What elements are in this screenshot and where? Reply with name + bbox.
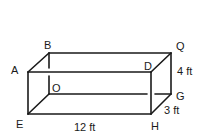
prism-diagram: B A Q D O G E H 4 ft 3 ft 12 ft <box>0 0 203 140</box>
vertex-label-A: A <box>11 64 19 76</box>
vertex-label-O: O <box>52 82 61 94</box>
vertex-label-H: H <box>151 120 159 132</box>
edge-DQ <box>151 53 171 72</box>
vertex-label-B: B <box>44 39 51 51</box>
vertex-label-Q: Q <box>176 40 185 52</box>
edge-AB <box>28 53 49 72</box>
vertex-label-D: D <box>144 60 152 72</box>
dimension-depth-label: 3 ft <box>164 104 179 116</box>
edge-EO <box>28 94 49 114</box>
dimension-height-label: 4 ft <box>177 65 192 77</box>
dimension-length-label: 12 ft <box>74 121 95 133</box>
vertex-label-E: E <box>16 118 23 130</box>
vertex-label-G: G <box>176 90 185 102</box>
